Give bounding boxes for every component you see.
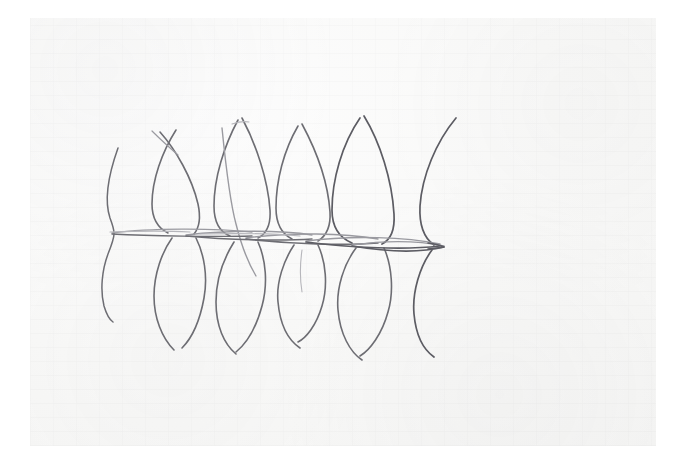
artboard: Pencil study of repeating leaf-and-axis … [0,0,684,475]
paper-texture [30,18,656,446]
paper-tonal-variation [30,18,656,446]
paper-sheet [30,18,656,446]
